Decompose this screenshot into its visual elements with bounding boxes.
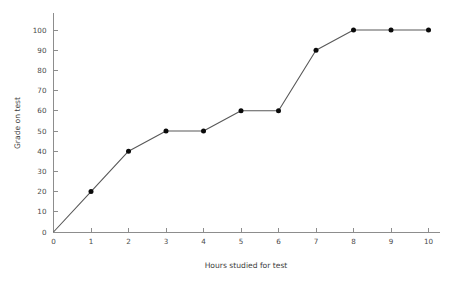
chart-plot-area: 0102030405060708090100 012345678910 Hour… (0, 0, 457, 281)
x-tick-label: 8 (351, 237, 356, 246)
y-tick-label: 20 (37, 187, 47, 196)
x-tick-label: 4 (201, 237, 206, 246)
y-tick-label: 70 (37, 86, 47, 95)
x-tick-label: 7 (314, 237, 319, 246)
x-tick-label: 10 (424, 237, 434, 246)
y-tick-label: 80 (37, 66, 47, 75)
data-point-marker (201, 129, 206, 134)
data-point-marker (426, 28, 431, 33)
data-point-marker (126, 149, 131, 154)
data-point-marker (389, 28, 394, 33)
x-tick-label: 2 (126, 237, 131, 246)
x-tick-label: 1 (89, 237, 94, 246)
y-tick-label: 10 (37, 207, 47, 216)
line-chart-figure: 0102030405060708090100 012345678910 Hour… (0, 0, 457, 281)
y-tick-label: 100 (33, 26, 47, 35)
x-tick-label: 3 (164, 237, 169, 246)
y-tick-label: 40 (37, 147, 47, 156)
x-tick-label: 6 (276, 237, 281, 246)
x-tick-label: 5 (239, 237, 244, 246)
x-tick-label: 0 (51, 237, 56, 246)
x-tick-label: 9 (389, 237, 394, 246)
y-tick-label: 50 (37, 127, 47, 136)
y-tick-label: 90 (37, 46, 47, 55)
data-point-marker (89, 189, 94, 194)
data-point-marker (351, 28, 356, 33)
y-tick-label: 60 (37, 106, 47, 115)
data-point-marker (239, 108, 244, 113)
y-tick-label: 0 (42, 228, 47, 237)
data-point-marker (276, 108, 281, 113)
y-tick-label: 30 (37, 167, 47, 176)
data-point-marker (314, 48, 319, 53)
y-axis-title: Grade on test (13, 97, 22, 149)
x-axis-title: Hours studied for test (205, 261, 288, 270)
data-point-marker (164, 129, 169, 134)
